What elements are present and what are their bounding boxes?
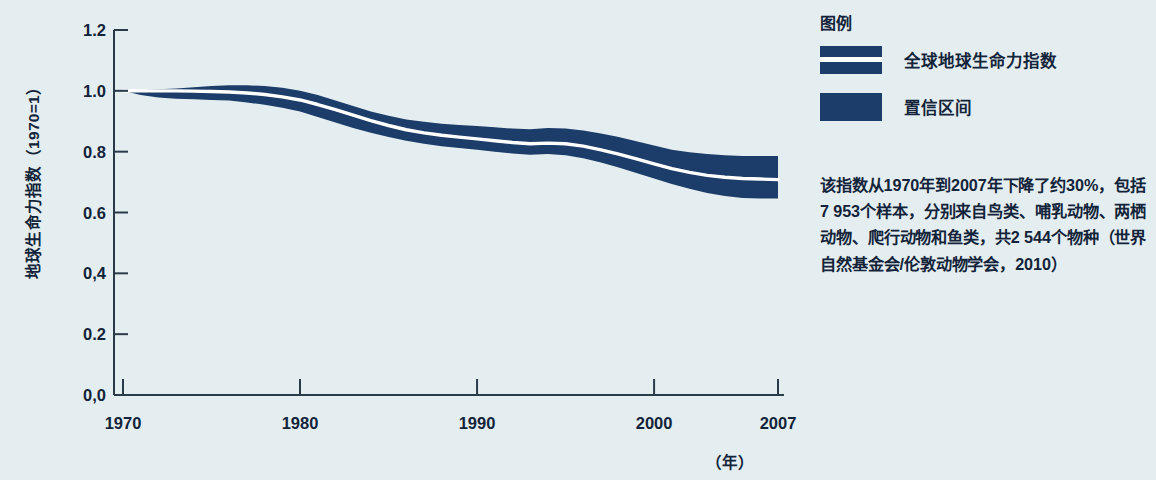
x-tick-label: 1970 <box>78 415 168 432</box>
legend-swatch-line-icon <box>820 46 882 74</box>
plot-area: 1.21.00.80.60,40.20,0 197019801990200020… <box>0 0 820 480</box>
legend-title: 图例 <box>820 10 852 34</box>
legend-label-confidence-interval: 置信区间 <box>904 95 972 119</box>
x-tick-labels: 19701980199020002007 <box>0 0 820 480</box>
legend-panel: 图例 全球地球生命力指数 置信区间 该指数从1970年到2007年下降了约30%… <box>816 0 1156 480</box>
legend-label-global-lpi: 全球地球生命力指数 <box>904 48 1057 72</box>
legend-item-confidence-interval: 置信区间 <box>820 93 972 121</box>
x-tick-label: 1980 <box>255 415 345 432</box>
x-tick-label: 1990 <box>432 415 522 432</box>
legend-swatch-band-icon <box>820 93 882 121</box>
chart-description: 该指数从1970年到2007年下降了约30%，包括7 953个样本，分别来自鸟类… <box>820 172 1152 277</box>
x-tick-label: 2007 <box>733 415 823 432</box>
x-tick-label: 2000 <box>609 415 699 432</box>
legend-item-global-lpi: 全球地球生命力指数 <box>820 46 1057 74</box>
x-axis-unit-label: （年） <box>706 450 754 472</box>
figure-root: 地球生命力指数（1970=1） 1.21.00.80.60,40.20,0 19… <box>0 0 1156 480</box>
